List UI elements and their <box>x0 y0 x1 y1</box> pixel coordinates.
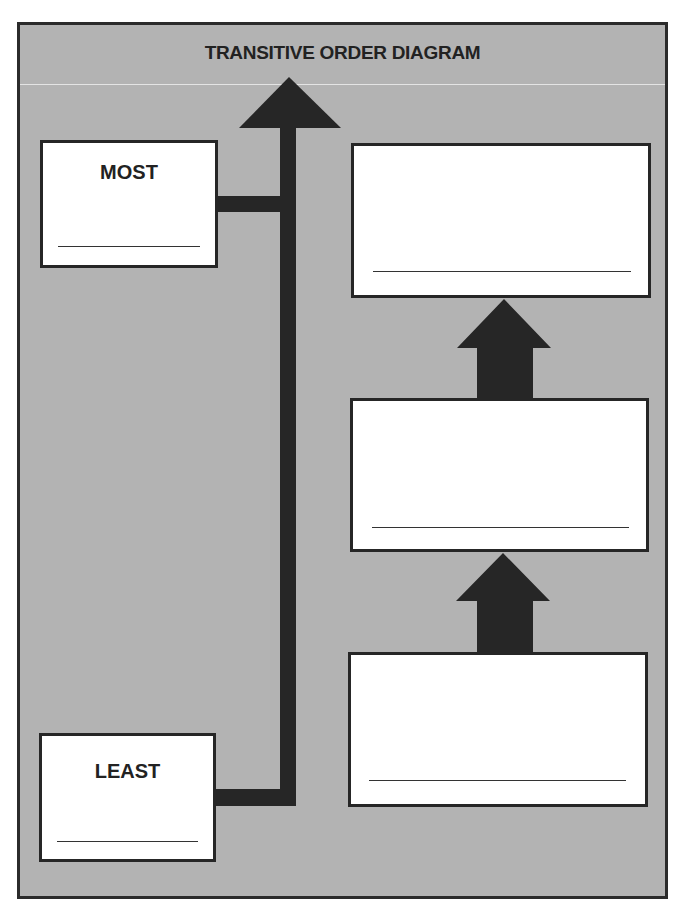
up-arrow-icon <box>456 553 550 653</box>
least-box: LEAST <box>39 733 216 862</box>
order-box-bottom-answer-line[interactable] <box>369 780 626 781</box>
most-label: MOST <box>43 161 215 184</box>
least-answer-line[interactable] <box>57 841 198 842</box>
order-box-top <box>351 143 651 298</box>
up-arrow-icon <box>239 77 341 128</box>
up-arrow-icon <box>457 299 551 400</box>
least-label: LEAST <box>42 760 213 783</box>
order-box-middle <box>350 398 649 552</box>
order-box-top-answer-line[interactable] <box>373 271 631 272</box>
most-box: MOST <box>40 140 218 268</box>
most-answer-line[interactable] <box>58 246 200 247</box>
order-box-bottom <box>348 652 648 807</box>
order-box-middle-answer-line[interactable] <box>372 527 629 528</box>
